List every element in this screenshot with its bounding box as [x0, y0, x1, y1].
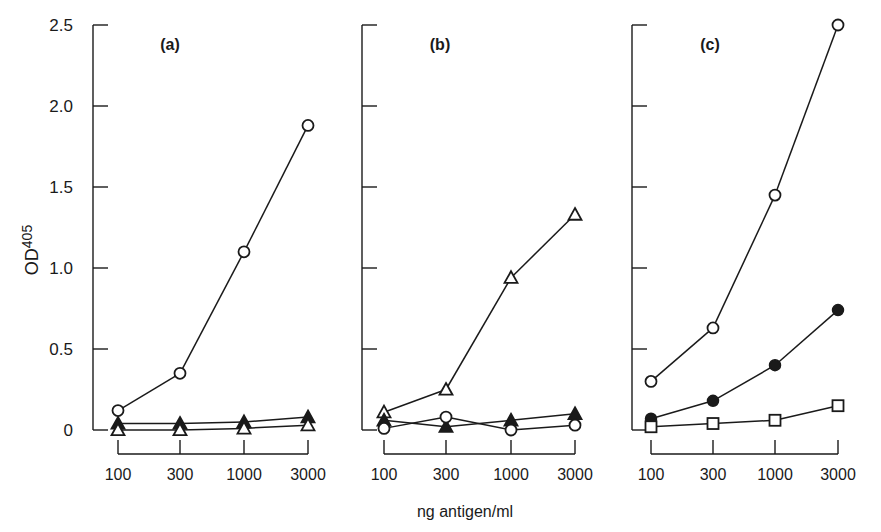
series-markers-layer: [112, 20, 844, 436]
x-tick-label: 100: [105, 466, 132, 483]
y-axis-label-main: OD: [22, 248, 42, 275]
series-segment: [775, 310, 838, 365]
open-triangle-marker: [440, 383, 453, 395]
series-line: [118, 417, 308, 423]
open-circle-marker: [646, 376, 657, 387]
series-segment: [651, 424, 713, 427]
panel-title: (b): [430, 36, 450, 53]
open-circle-marker: [770, 190, 781, 201]
x-tick-label: 300: [700, 466, 727, 483]
open-square-marker: [833, 400, 844, 411]
panel-c-axes: [632, 25, 838, 454]
panel-title: (c): [700, 36, 720, 53]
filled-circle-marker: [770, 360, 781, 371]
open-circle-marker: [303, 120, 314, 131]
x-tick-label: 1000: [493, 466, 529, 483]
open-circle-marker: [570, 420, 581, 431]
x-tick-label: 300: [433, 466, 460, 483]
series-segment: [713, 365, 775, 401]
open-circle-marker: [441, 412, 452, 423]
series-segment: [244, 125, 308, 251]
series-segment: [244, 425, 308, 428]
series-segment: [118, 373, 180, 410]
open-square-marker: [770, 415, 781, 426]
series-line: [651, 406, 838, 427]
series-line: [651, 25, 838, 381]
series-lines-layer: [118, 25, 838, 430]
y-tick-label: 0.5: [49, 340, 73, 359]
x-tick-label: 1000: [757, 466, 793, 483]
open-circle-marker: [708, 322, 719, 333]
y-tick-label: 1.0: [49, 259, 73, 278]
x-axis-label: ng antigen/ml: [417, 503, 513, 520]
panel-title: (a): [160, 36, 180, 53]
series-line: [384, 414, 575, 427]
open-triangle-marker: [569, 208, 582, 220]
series-line: [118, 125, 308, 410]
filled-circle-marker: [833, 305, 844, 316]
series-segment: [651, 328, 713, 381]
x-tick-label: 3000: [820, 466, 856, 483]
open-circle-marker: [175, 368, 186, 379]
y-tick-label: 2.0: [49, 97, 73, 116]
open-circle-marker: [506, 425, 517, 436]
open-square-marker: [708, 418, 719, 429]
y-tick-label: 0: [64, 421, 73, 440]
figure: 00.51.01.52.02.510030010003000(a)1003001…: [0, 0, 881, 532]
y-tick-label: 1.5: [49, 178, 73, 197]
x-tick-label: 300: [167, 466, 194, 483]
series-segment: [775, 406, 838, 421]
series-segment: [511, 215, 575, 278]
x-tick-label: 1000: [226, 466, 262, 483]
series-segment: [713, 420, 775, 423]
y-axis-label-subscript: 405: [19, 225, 35, 249]
series-line: [384, 215, 575, 413]
series-line: [384, 417, 575, 430]
series-segment: [180, 422, 244, 424]
series-segment: [446, 278, 511, 390]
open-circle-marker: [833, 20, 844, 31]
x-tick-label: 3000: [557, 466, 593, 483]
open-circle-marker: [239, 246, 250, 257]
y-axis-label: OD405: [19, 225, 42, 276]
x-tick-label: 100: [638, 466, 665, 483]
series-line: [118, 425, 308, 430]
series-line: [651, 310, 838, 419]
open-square-marker: [646, 421, 657, 432]
series-segment: [180, 428, 244, 430]
axes-layer: [93, 25, 838, 454]
series-segment: [511, 414, 575, 420]
series-segment: [446, 417, 511, 430]
series-segment: [511, 425, 575, 430]
series-segment: [713, 195, 775, 328]
open-circle-marker: [379, 423, 390, 434]
x-tick-label: 100: [371, 466, 398, 483]
panel-a-axes: [93, 25, 308, 454]
series-segment: [244, 417, 308, 422]
x-tick-label: 3000: [290, 466, 326, 483]
series-segment: [651, 401, 713, 419]
series-segment: [384, 417, 446, 428]
series-segment: [775, 25, 838, 195]
chart-canvas: 00.51.01.52.02.510030010003000(a)1003001…: [0, 0, 881, 532]
y-tick-label: 2.5: [49, 16, 73, 35]
open-circle-marker: [113, 405, 124, 416]
series-segment: [384, 420, 446, 426]
text-layer: 00.51.01.52.02.510030010003000(a)1003001…: [19, 16, 856, 520]
panel-b-axes: [362, 25, 575, 454]
series-segment: [384, 390, 446, 413]
filled-circle-marker: [708, 395, 719, 406]
series-segment: [180, 252, 244, 373]
filled-triangle-marker: [569, 407, 582, 419]
